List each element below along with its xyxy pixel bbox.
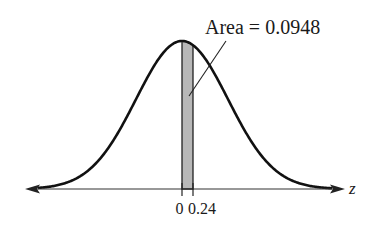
axis-label-z: z	[348, 179, 356, 198]
annotation-leader	[189, 41, 226, 96]
annotation-label: Area = 0.0948	[205, 16, 320, 38]
tick-label-024: 0.24	[188, 200, 216, 217]
shaded-area	[182, 41, 193, 189]
normal-curve-chart: Area = 0.0948 0 0.24 z	[0, 0, 381, 229]
tick-label-zero: 0	[176, 200, 184, 217]
